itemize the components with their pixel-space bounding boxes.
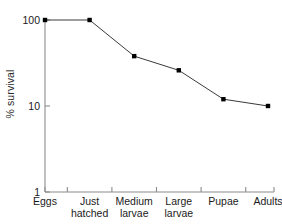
series-line (45, 20, 268, 106)
data-point-marker (177, 68, 181, 72)
data-point-marker (43, 18, 47, 22)
plot-area (0, 0, 282, 224)
data-point-marker (266, 104, 270, 108)
data-point-marker (132, 54, 136, 58)
data-series-survival (43, 18, 270, 108)
data-point-marker (221, 97, 225, 101)
axes (45, 20, 274, 192)
data-point-marker (87, 18, 91, 22)
survival-curve-chart: % survival 100 10 1 EggsJust hatchedMedi… (0, 0, 282, 224)
x-tick-label-adults: Adults (230, 196, 282, 208)
